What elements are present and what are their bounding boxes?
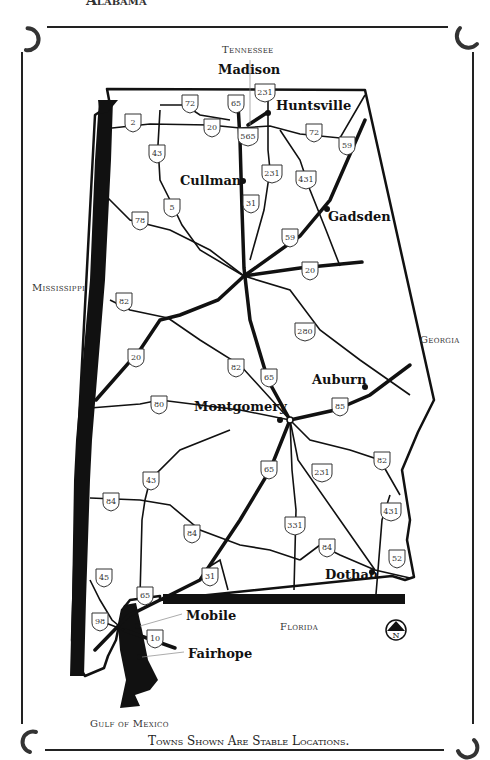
svg-text:231: 231 [257,88,272,97]
svg-text:431: 431 [298,175,313,184]
state-label-mississippi: Mississippi [32,282,85,293]
svg-text:20: 20 [305,266,315,275]
route-shield-31: 31 [243,195,259,213]
svg-text:31: 31 [246,199,256,208]
svg-text:59: 59 [342,141,352,150]
horseshoe-icon-bottom-right [458,740,477,757]
route-shield-82: 82 [228,359,244,377]
svg-text:80: 80 [154,400,164,409]
route-shield-2: 2 [125,114,141,132]
svg-text:65: 65 [231,99,241,108]
city-label-mobile: Mobile [186,608,236,623]
river-nw-corner [98,100,118,114]
route-shield-84: 84 [103,493,119,511]
svg-text:45: 45 [99,573,109,582]
svg-text:84: 84 [187,529,197,538]
city-label-fairhope: Fairhope [188,646,252,661]
state-label-gulf-of-mexico: Gulf of Mexico [90,718,169,729]
svg-text:5: 5 [169,203,174,212]
city-label-auburn: Auburn [312,372,366,387]
svg-text:231: 231 [314,468,329,477]
svg-text:280: 280 [297,327,312,336]
svg-text:231: 231 [264,169,279,178]
city-label-cullman: Cullman [180,173,241,188]
route-shield-43: 43 [143,472,159,490]
route-shield-10: 10 [147,630,163,648]
route-shield-52: 52 [389,550,405,568]
route-shield-65: 65 [137,587,153,605]
state-label-florida: Florida [280,621,318,632]
svg-text:72: 72 [309,128,319,137]
route-shield-78: 78 [132,212,148,230]
city-label-huntsville: Huntsville [276,98,351,113]
svg-text:82: 82 [119,297,129,306]
route-shield-65: 65 [228,95,244,113]
route-shield-80: 80 [151,396,167,414]
city-label-montgomery: Montgomery [194,399,287,414]
north-arrow-icon: N [386,620,406,640]
horseshoe-icon-top-left [19,26,42,52]
svg-text:84: 84 [322,543,332,552]
route-shield-84: 84 [184,525,200,543]
route-shield-45: 45 [96,569,112,587]
svg-text:59: 59 [285,233,295,242]
svg-text:85: 85 [335,402,345,411]
route-shield-82: 82 [374,452,390,470]
route-shield-431: 431 [296,171,316,189]
svg-text:78: 78 [135,216,145,225]
svg-text:65: 65 [264,465,274,474]
route-shield-72: 72 [182,95,198,113]
route-shield-231: 231 [312,464,332,482]
svg-text:98: 98 [95,617,105,626]
svg-text:43: 43 [146,476,156,485]
city-label-madison: Madison [218,62,280,77]
svg-text:43: 43 [152,149,162,158]
route-shield-59: 59 [282,229,298,247]
state-label-tennessee: Tennessee [222,44,274,55]
footer-note: Towns Shown Are Stable Locations. [148,734,349,748]
route-shield-20: 20 [204,119,220,137]
route-shield-84: 84 [319,539,335,557]
route-shield-65: 65 [261,369,277,387]
city-label-dothan: Dothan [325,567,378,582]
svg-text:10: 10 [150,634,160,643]
route-shield-5: 5 [164,199,180,217]
svg-text:431: 431 [383,507,398,516]
svg-text:565: 565 [240,132,255,141]
svg-text:82: 82 [377,456,387,465]
svg-text:82: 82 [231,363,241,372]
route-shield-43: 43 [149,145,165,163]
route-shield-98: 98 [92,613,108,631]
svg-text:52: 52 [392,554,402,563]
svg-text:84: 84 [106,497,116,506]
florida-border [163,594,405,604]
svg-text:65: 65 [264,373,274,382]
city-label-gadsden: Gadsden [328,209,391,224]
route-shield-331: 331 [285,517,305,535]
svg-text:20: 20 [131,353,141,362]
route-shield-231: 231 [255,84,275,102]
route-shield-82: 82 [116,293,132,311]
svg-text:65: 65 [140,591,150,600]
route-shield-565: 565 [238,128,258,146]
route-shield-31: 31 [202,568,218,586]
route-shield-431: 431 [381,503,401,521]
svg-text:2: 2 [130,118,135,127]
route-shield-231: 231 [262,165,282,183]
route-shield-59: 59 [339,137,355,155]
svg-text:31: 31 [205,572,215,581]
route-shield-72: 72 [306,124,322,142]
route-shield-65: 65 [261,461,277,479]
route-shield-20: 20 [302,262,318,280]
state-label-georgia: Georgia [420,334,460,345]
svg-text:331: 331 [287,521,302,530]
route-shield-85: 85 [332,398,348,416]
svg-text:20: 20 [207,123,217,132]
svg-text:N: N [393,631,400,640]
horseshoe-icon-top-right [457,28,477,48]
state-outline [72,89,434,676]
horseshoe-icon-bottom-left [23,732,36,752]
svg-text:72: 72 [185,99,195,108]
route-shield-280: 280 [295,323,315,341]
route-shield-20: 20 [128,349,144,367]
